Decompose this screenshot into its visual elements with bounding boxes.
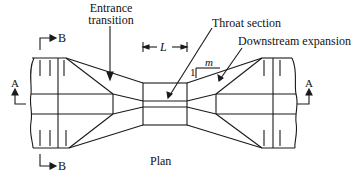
section-a-left-label: A <box>11 77 19 89</box>
plan-caption: Plan <box>150 155 171 167</box>
downstream-expansion-label: Downstream expansion <box>238 35 351 47</box>
section-b-bottom-arrow <box>40 154 56 169</box>
slope-run-label: m <box>205 56 213 68</box>
downstream-expansion <box>187 58 262 148</box>
length-label: L <box>160 41 167 53</box>
section-a-right-arrow <box>297 89 312 104</box>
section-b-top-arrow <box>40 35 56 50</box>
downstream-exit-channel <box>216 58 297 148</box>
slope-rise-label: 1 <box>190 66 196 78</box>
upstream-approach-channel <box>30 58 113 148</box>
flume-plan-drawing <box>0 0 358 178</box>
throat-section-label: Throat section <box>212 17 281 29</box>
throat-section <box>143 83 187 125</box>
section-a-left-arrow <box>12 89 26 104</box>
entrance-transition <box>66 58 143 148</box>
entrance-label-line2: transition <box>86 14 136 26</box>
section-b-bottom-label: B <box>58 160 66 172</box>
section-a-right-label: A <box>305 77 313 89</box>
leader-lines <box>107 26 242 98</box>
section-b-top-label: B <box>58 32 66 44</box>
entrance-transition-label: Entrance transition <box>86 2 136 26</box>
